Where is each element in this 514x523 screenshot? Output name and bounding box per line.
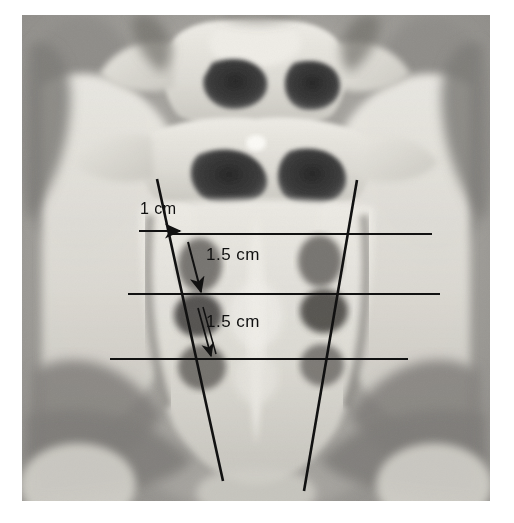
- measurement-label-1p5cm-b: 1.5 cm: [206, 312, 260, 332]
- measurement-label-1cm: 1 cm: [140, 200, 177, 218]
- measurement-label-1p5cm-a: 1.5 cm: [206, 245, 260, 265]
- radiograph-figure: 1 cm 1.5 cm 1.5 cm: [0, 0, 514, 523]
